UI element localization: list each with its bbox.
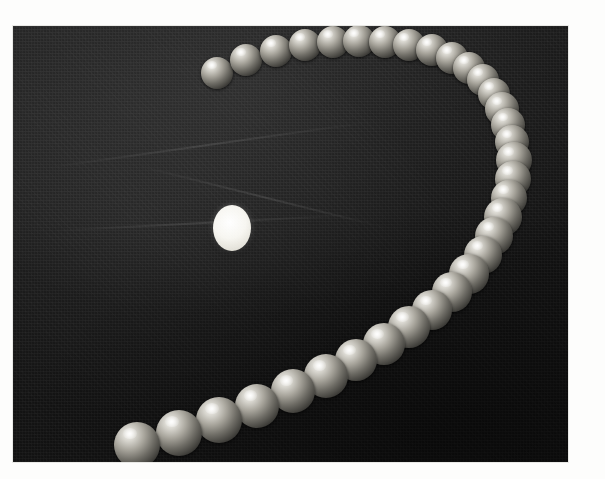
- reference-marker: [213, 205, 251, 251]
- strobe-ball: [260, 35, 292, 67]
- strobe-ball: [156, 410, 202, 456]
- strobe-ball: [196, 397, 242, 443]
- photo-plate: [13, 26, 568, 462]
- scanned-page: [0, 0, 605, 479]
- strobe-ball: [201, 57, 233, 89]
- strobe-ball: [289, 29, 321, 61]
- strobe-ball: [230, 44, 262, 76]
- strobe-ball: [114, 422, 160, 462]
